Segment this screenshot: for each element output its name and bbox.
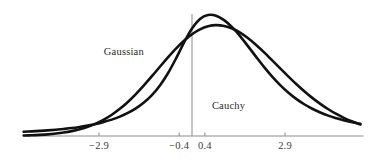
distribution-comparison-chart: −2.9−0.40.42.9 Gaussian Cauchy bbox=[0, 0, 382, 160]
plot-area: −2.9−0.40.42.9 Gaussian Cauchy bbox=[0, 0, 382, 160]
x-axis-tick-labels: −2.9−0.40.42.9 bbox=[89, 140, 292, 151]
gaussian-series-label: Gaussian bbox=[104, 46, 145, 57]
x-tick-label-1: −0.4 bbox=[169, 140, 189, 151]
x-tick-label-2: 0.4 bbox=[198, 140, 212, 151]
x-tick-label-0: −2.9 bbox=[89, 140, 109, 151]
x-tick-label-3: 2.9 bbox=[278, 140, 292, 151]
cauchy-series-label: Cauchy bbox=[212, 100, 246, 111]
